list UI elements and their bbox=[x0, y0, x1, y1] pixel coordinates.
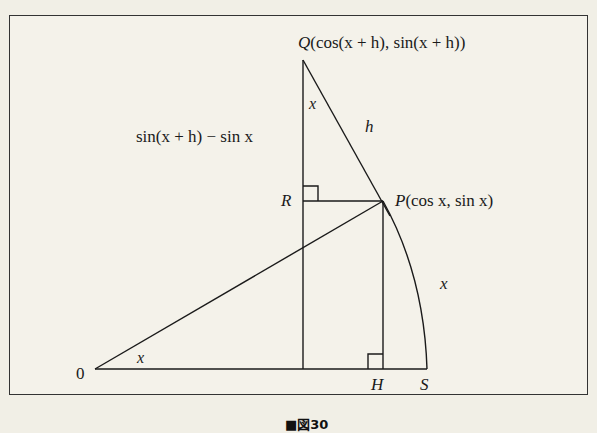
label-P-coords: (cos x, sin x) bbox=[405, 191, 493, 210]
label-Q: Q(cos(x + h), sin(x + h)) bbox=[298, 34, 465, 51]
label-Q-name: Q bbox=[298, 33, 310, 52]
segment-OP bbox=[95, 201, 383, 369]
label-angle-Q: x bbox=[309, 96, 316, 112]
segment-QP bbox=[303, 60, 390, 216]
label-h: h bbox=[365, 118, 374, 135]
label-origin: 0 bbox=[76, 365, 85, 382]
figure-caption: ■図30 bbox=[285, 414, 328, 433]
label-S: S bbox=[420, 376, 429, 393]
right-angle-H-icon bbox=[368, 354, 383, 369]
label-H: H bbox=[371, 376, 383, 393]
label-angle-origin: x bbox=[137, 350, 144, 366]
right-angle-R-icon bbox=[303, 186, 318, 201]
label-R: R bbox=[281, 192, 291, 209]
label-Q-coords: (cos(x + h), sin(x + h)) bbox=[310, 33, 465, 52]
label-arc-x: x bbox=[440, 275, 448, 292]
label-QR-length: sin(x + h) − sin x bbox=[136, 128, 253, 145]
arc-PS bbox=[383, 201, 427, 369]
label-P-name: P bbox=[395, 191, 405, 210]
label-P: P(cos x, sin x) bbox=[395, 192, 493, 209]
